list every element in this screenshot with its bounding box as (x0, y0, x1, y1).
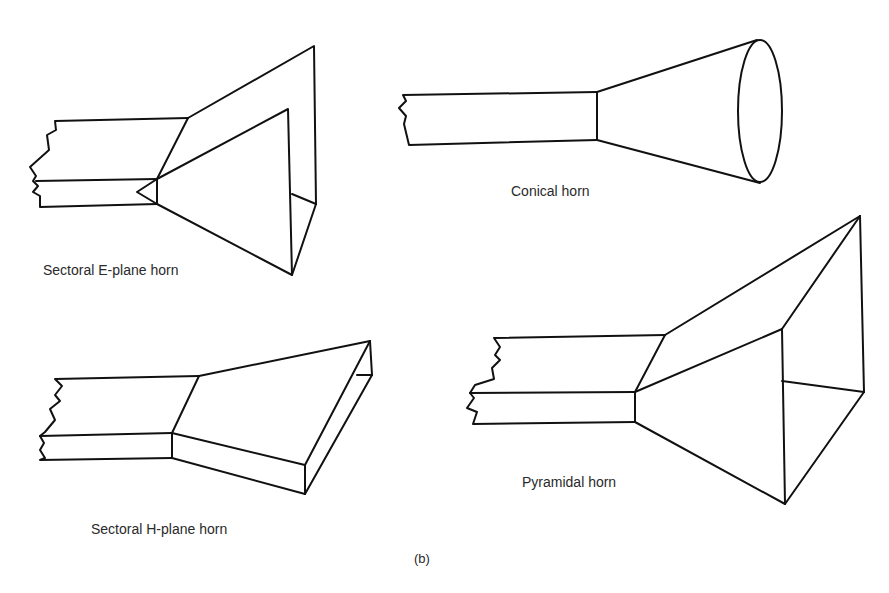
h-plane-horn-label: Sectoral H-plane horn (91, 521, 227, 537)
horn-antenna-diagram (0, 0, 889, 593)
panel-label: (b) (414, 551, 430, 566)
pyramidal-horn-drawing (467, 216, 864, 504)
conical-horn-label: Conical horn (511, 183, 590, 199)
e-plane-horn-drawing (30, 46, 316, 275)
pyramidal-horn-label: Pyramidal horn (522, 474, 616, 490)
h-plane-horn-drawing (40, 341, 372, 494)
e-plane-horn-label: Sectoral E-plane horn (43, 262, 178, 278)
conical-horn-drawing (399, 40, 782, 183)
